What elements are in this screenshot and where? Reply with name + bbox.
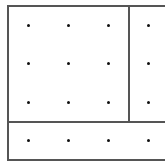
horizontal-divider xyxy=(7,121,165,123)
outer-bottom-border xyxy=(7,159,165,161)
vertical-divider xyxy=(128,5,130,121)
grid-dot xyxy=(147,62,150,65)
grid-dot xyxy=(27,24,30,27)
grid-dot xyxy=(67,139,70,142)
outer-top-border xyxy=(7,5,165,7)
grid-dot xyxy=(67,24,70,27)
grid-dot xyxy=(147,24,150,27)
grid-dot xyxy=(147,139,150,142)
grid-dot xyxy=(107,139,110,142)
grid-dot xyxy=(107,101,110,104)
outer-left-border xyxy=(7,5,9,161)
grid-dot xyxy=(27,101,30,104)
grid-dot xyxy=(107,24,110,27)
grid-dot xyxy=(67,62,70,65)
grid-dot xyxy=(67,101,70,104)
grid-dot xyxy=(27,62,30,65)
grid-dot xyxy=(107,62,110,65)
grid-dot xyxy=(27,139,30,142)
grid-dot xyxy=(147,101,150,104)
